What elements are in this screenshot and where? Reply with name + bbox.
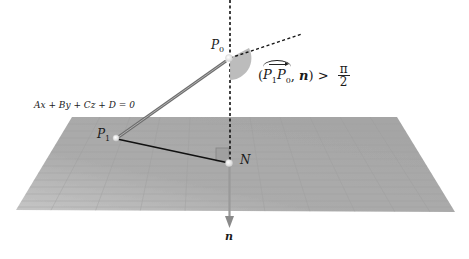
angle-condition-label: ( P1P0 , n ) > π 2 bbox=[258, 63, 350, 88]
comma: , bbox=[291, 68, 299, 83]
point-P1-sub: 1 bbox=[105, 134, 110, 143]
fraction-denominator: 2 bbox=[340, 76, 348, 88]
vec-sub-2: 0 bbox=[286, 75, 291, 84]
normal-vector-label: n bbox=[225, 230, 233, 243]
point-N-label: N bbox=[240, 153, 251, 167]
point-P1-base: P bbox=[97, 127, 105, 141]
diagram-canvas: Ax + By + Cz + D = 0 P0 P1 N n ( P1P0 , … bbox=[0, 0, 469, 259]
normal-symbol: n bbox=[299, 68, 308, 83]
point-P0-label: P0 bbox=[211, 38, 224, 54]
point-P1 bbox=[113, 135, 119, 141]
point-P0-base: P bbox=[211, 38, 219, 52]
point-P1-label: P1 bbox=[97, 127, 110, 143]
plane bbox=[0, 117, 469, 212]
vector-arrow-mark bbox=[269, 64, 287, 65]
point-P0 bbox=[226, 55, 233, 62]
plane-equation-label: Ax + By + Cz + D = 0 bbox=[34, 100, 135, 110]
diagram-svg bbox=[0, 0, 469, 259]
vec-base-1: P bbox=[263, 67, 272, 82]
point-N bbox=[226, 160, 233, 167]
vec-base-2: P bbox=[277, 67, 286, 82]
extension-line-dashed bbox=[230, 34, 302, 58]
fraction-pi-over-2: π 2 bbox=[338, 63, 350, 88]
right-angle-marker bbox=[216, 148, 229, 161]
point-P0-sub: 0 bbox=[219, 45, 224, 54]
greater-than: > bbox=[314, 68, 333, 83]
angle-wedge bbox=[230, 48, 251, 80]
vector-P1P0: P1P0 bbox=[263, 67, 291, 85]
